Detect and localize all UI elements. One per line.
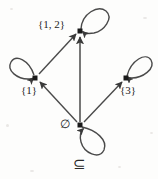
node-label-onetwo: {1, 2} (38, 19, 65, 30)
self-loop-three (127, 57, 152, 78)
node-label-one: {1} (21, 85, 37, 96)
vertex-dot-three (124, 76, 129, 81)
subset-relation-digraph: {1, 2} {1} {3} ∅ ⊆ (0, 0, 158, 179)
self-loop-onetwo (81, 9, 109, 33)
edge-one-to-onetwo (39, 34, 76, 74)
vertex-dot-one (33, 76, 38, 81)
node-label-empty-set: ∅ (60, 118, 70, 130)
vertex-dot-onetwo (78, 29, 83, 34)
scan-speck (118, 166, 121, 168)
relation-caption: ⊆ (73, 157, 86, 172)
scan-speck (10, 8, 13, 10)
edge-empty-to-one (40, 82, 77, 122)
edge-group (39, 34, 122, 122)
scan-speck (30, 170, 34, 172)
self-loop-empty (80, 127, 104, 155)
scan-speck (150, 132, 153, 134)
edge-empty-to-three (84, 82, 122, 122)
vertex-dot-empty (78, 123, 83, 128)
scan-speck (6, 124, 9, 127)
self-loop-one (10, 58, 34, 79)
node-label-three: {3} (120, 85, 136, 96)
scan-speck (143, 17, 147, 19)
